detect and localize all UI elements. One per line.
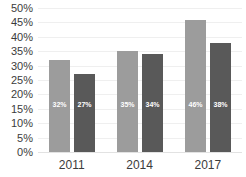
plot-area: 32%27%35%34%46%38% — [38, 8, 242, 152]
x-axis-tick-label: 2011 — [59, 154, 85, 172]
bar-value-label: 34% — [142, 101, 163, 109]
bar-value-label: 35% — [117, 101, 138, 109]
bar[interactable]: 35% — [117, 51, 138, 152]
bar-groups: 32%27%35%34%46%38% — [38, 8, 242, 152]
x-axis: 201120142017 — [38, 154, 242, 176]
y-axis: 50%45%40%35%30%25%20%15%10%5%0% — [0, 0, 36, 160]
bar-value-label: 27% — [74, 101, 95, 109]
bar-value-label: 38% — [210, 101, 231, 109]
bar-value-label: 46% — [185, 101, 206, 109]
bar[interactable]: 46% — [185, 20, 206, 152]
bar[interactable]: 34% — [142, 54, 163, 152]
y-axis-tick-label: 20% — [11, 89, 33, 100]
x-axis-tick-label: 2017 — [195, 154, 222, 172]
x-axis-tick-label: 2014 — [126, 154, 153, 172]
y-axis-tick-label: 40% — [11, 31, 33, 42]
bar[interactable]: 38% — [210, 43, 231, 152]
y-axis-tick-label: 35% — [11, 46, 33, 57]
axis-baseline — [38, 152, 242, 153]
y-axis-tick-label: 45% — [11, 17, 33, 28]
bar[interactable]: 27% — [74, 74, 95, 152]
bar[interactable]: 32% — [49, 60, 70, 152]
y-axis-tick-label: 5% — [17, 132, 33, 143]
y-axis-tick-label: 50% — [11, 3, 33, 14]
bar-group: 32%27% — [49, 8, 95, 152]
bar-group: 35%34% — [117, 8, 163, 152]
y-axis-tick-label: 0% — [17, 147, 33, 158]
bar-chart: 50%45%40%35%30%25%20%15%10%5%0% 32%27%35… — [0, 0, 246, 177]
y-axis-tick-label: 10% — [11, 118, 33, 129]
y-axis-tick-label: 15% — [11, 103, 33, 114]
bar-value-label: 32% — [49, 101, 70, 109]
bar-group: 46%38% — [185, 8, 231, 152]
y-axis-tick-label: 30% — [11, 60, 33, 71]
y-axis-tick-label: 25% — [11, 75, 33, 86]
